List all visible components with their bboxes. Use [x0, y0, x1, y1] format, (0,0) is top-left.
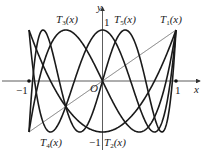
- y-tick-1: 1: [104, 17, 110, 28]
- origin-label: O: [90, 83, 98, 94]
- label-t1: T1(x): [160, 14, 182, 27]
- label-t2: T2(x): [104, 137, 126, 150]
- label-t5: T5(x): [114, 14, 136, 27]
- label-t3: T3(x): [56, 14, 78, 27]
- x-tick-neg1: −1: [16, 85, 28, 96]
- chebyshev-diagram: y x O 1 −1 −1 1 T1(x) T2(x) T3(x) T4(x) …: [0, 0, 206, 153]
- label-t4: T4(x): [40, 137, 62, 150]
- y-axis-label: y: [97, 2, 102, 13]
- x-tick-1: 1: [175, 85, 181, 96]
- point-pos1: [174, 79, 178, 83]
- point-neg1: [27, 79, 31, 83]
- y-tick-neg1: −1: [89, 137, 101, 148]
- x-axis-label: x: [194, 84, 199, 95]
